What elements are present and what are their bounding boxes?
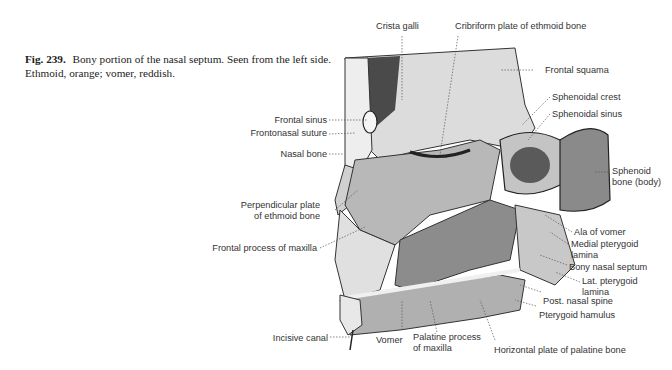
label-frontal-squama: Frontal squama [545, 65, 609, 76]
label-perpendicular-plate-line1: Perpendicular plate [220, 200, 320, 211]
anatomical-illustration: Crista galli Cribriform plate of ethmoid… [0, 0, 672, 370]
label-vomer: Vomer [376, 335, 403, 346]
label-incisive-canal: Incisive canal [250, 333, 328, 344]
label-perpendicular-plate-line2: of ethmoid bone [220, 211, 320, 222]
label-sphenoidal-crest: Sphenoidal crest [552, 92, 620, 103]
label-medial-pterygoid-line2: lamina [571, 250, 638, 261]
label-palatine-process-line2: of maxilla [413, 343, 481, 354]
label-frontal-process-maxilla: Frontal process of maxilla [190, 243, 317, 254]
label-perpendicular-plate: Perpendicular plate of ethmoid bone [220, 200, 320, 222]
label-sphenoid-body-line1: Sphenoid [612, 166, 661, 177]
label-lat-pterygoid: Lat. pterygoid lamina [582, 276, 638, 298]
label-post-nasal-spine: Post. nasal spine [543, 296, 613, 307]
label-palatine-process-line1: Palatine process [413, 332, 481, 343]
label-palatine-process: Palatine process of maxilla [413, 332, 481, 354]
label-frontonasal-suture: Frontonasal suture [230, 128, 327, 139]
label-lat-pterygoid-line1: Lat. pterygoid [582, 276, 638, 287]
label-medial-pterygoid: Medial pterygoid lamina [571, 239, 638, 261]
label-nasal-bone: Nasal bone [250, 149, 327, 160]
label-pterygoid-hamulus: Pterygoid hamulus [539, 310, 615, 321]
label-ala-of-vomer: Ala of vomer [574, 227, 626, 238]
label-crista-galli: Crista galli [376, 21, 419, 32]
label-sphenoid-body-line2: bone (body) [612, 177, 661, 188]
label-frontal-sinus: Frontal sinus [250, 115, 327, 126]
label-sphenoidal-sinus: Sphenoidal sinus [552, 109, 622, 120]
label-medial-pterygoid-line1: Medial pterygoid [571, 239, 638, 250]
label-cribriform-plate: Cribriform plate of ethmoid bone [455, 21, 586, 32]
label-horizontal-plate: Horizontal plate of palatine bone [494, 345, 626, 356]
label-sphenoid-body: Sphenoid bone (body) [612, 166, 661, 188]
label-bony-nasal-septum: Bony nasal septum [569, 262, 647, 273]
